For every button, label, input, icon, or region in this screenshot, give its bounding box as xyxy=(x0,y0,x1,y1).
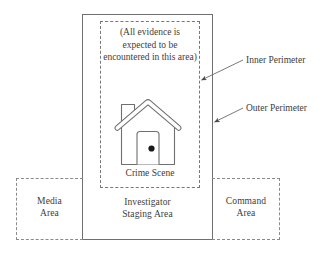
outer-perimeter-leader-line xyxy=(215,108,244,122)
diagram-canvas: (All evidence is expected to be encounte… xyxy=(0,0,330,255)
inner-perimeter-callout-label: Inner Perimeter xyxy=(246,55,305,65)
investigator-staging-area-label: Investigator Staging Area xyxy=(83,196,212,220)
evidence-note-text: (All evidence is expected to be encounte… xyxy=(103,26,197,64)
media-area-label: Media Area xyxy=(16,195,83,219)
outer-perimeter-callout-label: Outer Perimeter xyxy=(246,103,307,113)
crime-scene-label: Crime Scene xyxy=(100,168,200,178)
command-area-label: Command Area xyxy=(212,195,280,219)
house-icon xyxy=(112,96,184,168)
